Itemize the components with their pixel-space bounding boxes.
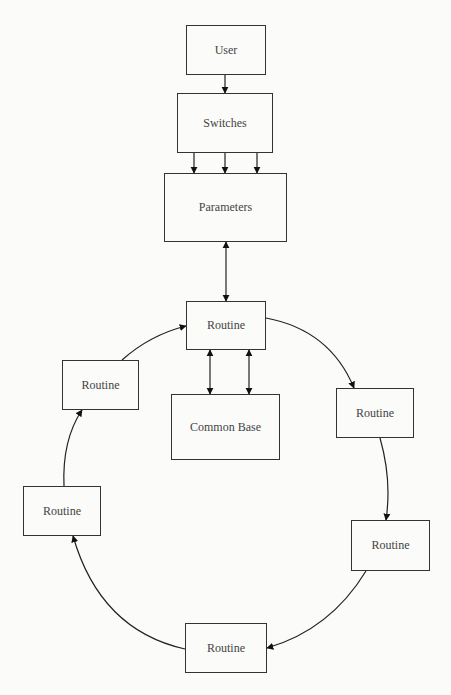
- arrow-upper-left-to-top: [122, 326, 186, 360]
- node-parameters: Parameters: [164, 173, 287, 242]
- arrow-lower-right-to-bottom: [267, 571, 366, 648]
- node-common-base: Common Base: [171, 394, 280, 460]
- node-label: Parameters: [199, 200, 252, 215]
- node-label: Routine: [43, 504, 81, 519]
- node-routine-bottom: Routine: [185, 623, 267, 673]
- node-switches: Switches: [177, 93, 273, 153]
- node-label: Routine: [82, 378, 120, 393]
- node-routine-lower-left: Routine: [23, 486, 101, 536]
- node-routine-lower-right: Routine: [351, 520, 430, 571]
- node-label: Common Base: [190, 420, 261, 435]
- arrow-lower-left-to-upper-left: [64, 410, 82, 486]
- node-routine-upper-right: Routine: [336, 388, 414, 438]
- node-label: Routine: [207, 318, 245, 333]
- node-user: User: [186, 25, 266, 75]
- node-routine-top: Routine: [186, 301, 266, 350]
- arrow-bottom-to-lower-left: [73, 536, 185, 649]
- node-label: Switches: [203, 116, 246, 131]
- node-label: Routine: [207, 641, 245, 656]
- arrow-upper-right-to-lower-right: [380, 438, 388, 520]
- node-label: Routine: [372, 538, 410, 553]
- node-label: Routine: [356, 406, 394, 421]
- node-routine-upper-left: Routine: [62, 360, 139, 410]
- arrow-top-to-upper-right: [266, 318, 354, 388]
- node-label: User: [215, 43, 238, 58]
